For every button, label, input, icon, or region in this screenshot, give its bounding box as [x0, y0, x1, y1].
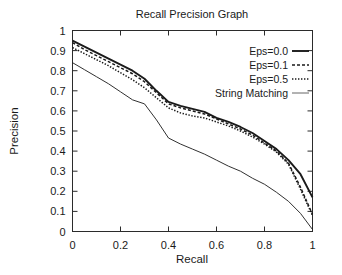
chart-svg: Recall Precision Graph 00.10.20.30.40.50… [0, 0, 342, 275]
x-tick-label: 0.8 [257, 239, 272, 251]
y-tick-label: 0 [59, 226, 65, 238]
x-tick-label: 0.2 [113, 239, 128, 251]
y-tick-label: 0.1 [50, 205, 65, 217]
y-tick-label: 1 [59, 25, 65, 37]
legend-label-3: String Matching [215, 87, 288, 99]
x-tick-label: 0 [69, 239, 75, 251]
x-tick-label: 1 [309, 239, 315, 251]
x-tick-label: 0.6 [209, 239, 224, 251]
y-tick-label: 0.3 [50, 165, 65, 177]
y-tick-label: 0.2 [50, 185, 65, 197]
y-axis-title: Precision [8, 107, 20, 154]
legend-label-1: Eps=0.1 [249, 59, 288, 71]
x-axis-title: Recall [176, 253, 208, 265]
legend-label-0: Eps=0.0 [249, 45, 288, 57]
x-tick-label: 0.4 [161, 239, 176, 251]
y-tick-label: 0.5 [50, 125, 65, 137]
y-tick-label: 0.7 [50, 85, 65, 97]
recall-precision-chart: Recall Precision Graph 00.10.20.30.40.50… [0, 0, 342, 275]
chart-title: Recall Precision Graph [136, 8, 249, 20]
y-tick-label: 0.4 [50, 145, 65, 157]
y-tick-label: 0.9 [50, 45, 65, 57]
y-tick-label: 0.8 [50, 65, 65, 77]
y-tick-label: 0.6 [50, 105, 65, 117]
legend-label-2: Eps=0.5 [249, 73, 288, 85]
legend: Eps=0.0Eps=0.1Eps=0.5String Matching [215, 45, 309, 99]
